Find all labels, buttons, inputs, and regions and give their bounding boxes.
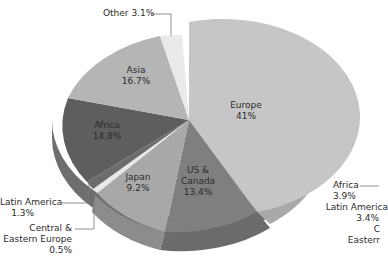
label-right-africa-name: Africa (333, 180, 359, 191)
label-cee-name1: Central & (0, 223, 72, 234)
label-right-cee: C Easterr (318, 224, 380, 246)
label-cee-name2: Eastern Europe (0, 234, 72, 245)
label-africa: Africa 14.8% (82, 120, 132, 142)
label-right-latin-america-name: Latin America (318, 202, 388, 213)
label-us-canada-name1: US & (172, 165, 224, 176)
label-europe-name: Europe (220, 100, 272, 111)
label-africa-name: Africa (82, 120, 132, 131)
label-us-canada: US & Canada 13.4% (172, 165, 224, 198)
label-us-canada-name2: Canada (172, 176, 224, 187)
label-africa-value: 14.8% (82, 131, 132, 142)
label-asia-name: Asia (110, 65, 162, 76)
label-japan: Japan 9.2% (118, 172, 158, 194)
label-japan-name: Japan (118, 172, 158, 183)
label-asia-value: 16.7% (110, 76, 162, 87)
label-right-latin-america: Latin America 3.4% (318, 202, 388, 224)
label-right-cee-name2: Easterr (318, 235, 380, 246)
leader-other (152, 14, 171, 36)
label-asia: Asia 16.7% (110, 65, 162, 87)
label-right-latin-america-value: 3.4% (318, 213, 388, 224)
label-japan-value: 9.2% (118, 183, 158, 194)
label-latin-america: Latin America 1.3% (0, 197, 60, 219)
label-right-cee-name1: C (318, 224, 380, 235)
label-europe: Europe 41% (220, 100, 272, 122)
label-cee-value: 0.5% (0, 245, 72, 256)
label-latin-america-name: Latin America (0, 197, 60, 208)
label-right-africa-value: 3.9% (333, 191, 359, 202)
label-latin-america-value: 1.3% (0, 208, 60, 219)
label-europe-value: 41% (220, 111, 272, 122)
label-cee: Central & Eastern Europe 0.5% (0, 223, 72, 256)
label-right-africa: Africa 3.9% (333, 180, 359, 202)
label-us-canada-value: 13.4% (172, 187, 224, 198)
label-other: Other 3.1% (103, 8, 154, 19)
